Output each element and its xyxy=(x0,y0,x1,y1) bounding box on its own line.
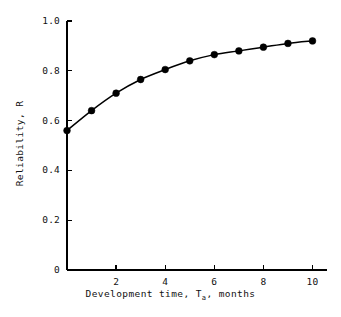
x-tick-label: 6 xyxy=(199,276,229,287)
data-point-marker xyxy=(285,40,292,47)
x-axis-title-subscript: a xyxy=(202,294,207,302)
data-point-marker xyxy=(235,47,242,54)
x-tick-label: 10 xyxy=(298,276,328,287)
y-tick-label: 0.8 xyxy=(26,65,60,76)
y-tick-label: 0.6 xyxy=(26,115,60,126)
y-tick-label: 1.0 xyxy=(26,15,60,26)
data-point-marker xyxy=(137,76,144,83)
data-point-marker xyxy=(309,38,316,45)
y-tick-label: 0.2 xyxy=(26,214,60,225)
data-point-marker xyxy=(260,44,267,51)
reliability-growth-chart: 00.20.40.60.81.0 246810 Reliability, R D… xyxy=(0,0,341,317)
x-axis-title: Development time, Ta, months xyxy=(0,288,341,299)
data-point-marker xyxy=(88,107,95,114)
data-point-marker xyxy=(162,66,169,73)
x-tick-label: 2 xyxy=(101,276,131,287)
data-point-marker xyxy=(64,127,71,134)
y-axis-title: Reliability, R xyxy=(14,89,25,199)
x-tick-label: 4 xyxy=(150,276,180,287)
data-point-marker xyxy=(186,57,193,64)
y-tick-label: 0.4 xyxy=(26,164,60,175)
data-point-marker xyxy=(113,90,120,97)
data-point-marker xyxy=(211,51,218,58)
y-tick-label: 0 xyxy=(26,264,60,275)
x-axis-title-suffix: , months xyxy=(206,288,255,299)
x-axis-title-prefix: Development time, T xyxy=(86,288,202,299)
x-tick-label: 8 xyxy=(248,276,278,287)
